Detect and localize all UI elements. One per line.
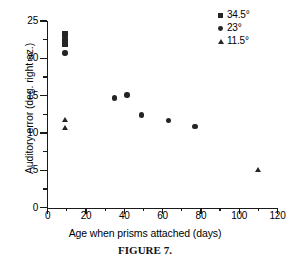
figure-caption: FIGURE 7. <box>0 244 290 256</box>
data-point-circle <box>139 112 144 117</box>
y-tick-5 <box>40 170 47 171</box>
data-point-triangle <box>62 117 68 122</box>
data-point-circle <box>62 50 67 55</box>
triangle-marker-icon <box>218 39 224 44</box>
circle-marker-icon <box>218 26 223 31</box>
y-tick-minor-7.5 <box>43 151 47 152</box>
data-point-circle <box>166 118 171 123</box>
x-axis-title: Age when prisms attached (days) <box>0 228 290 239</box>
x-tick-label-120: 120 <box>258 211 291 221</box>
y-tick-15 <box>40 95 47 96</box>
y-axis-title: Auditory error (deg. right az.) <box>24 24 35 194</box>
figure-container: 0510152025 020406080100120 Auditory erro… <box>0 0 290 256</box>
legend-item-0: 34.5° <box>218 9 288 22</box>
data-point-triangle <box>255 167 261 172</box>
x-tick-label-0: 0 <box>28 211 68 221</box>
data-point-triangle <box>62 125 68 130</box>
y-tick-minor-2.5 <box>43 188 47 189</box>
x-tick-label-40: 40 <box>104 211 144 221</box>
y-axis-spine <box>47 21 48 209</box>
y-tick-0 <box>40 207 47 208</box>
legend-item-2: 11.5° <box>218 35 288 48</box>
x-tick-label-20: 20 <box>66 211 106 221</box>
legend-label-0: 34.5° <box>227 9 249 21</box>
x-tick-label-100: 100 <box>219 211 259 221</box>
y-tick-10 <box>40 132 47 133</box>
data-point-circle <box>62 34 67 39</box>
x-tick-label-80: 80 <box>181 211 221 221</box>
legend: 34.5°23°11.5° <box>218 9 288 48</box>
data-point-circle <box>112 95 117 100</box>
y-tick-minor-22.5 <box>43 39 47 40</box>
y-tick-minor-12.5 <box>43 114 47 115</box>
data-point-circle <box>192 124 197 129</box>
legend-label-1: 23° <box>227 22 242 34</box>
y-tick-minor-17.5 <box>43 76 47 77</box>
y-tick-25 <box>40 20 47 21</box>
x-tick-label-60: 60 <box>143 211 183 221</box>
y-tick-20 <box>40 58 47 59</box>
data-point-square <box>62 42 67 47</box>
square-marker-icon <box>218 13 223 18</box>
legend-label-2: 11.5° <box>227 35 249 47</box>
data-point-circle <box>124 92 129 97</box>
legend-item-1: 23° <box>218 22 288 35</box>
